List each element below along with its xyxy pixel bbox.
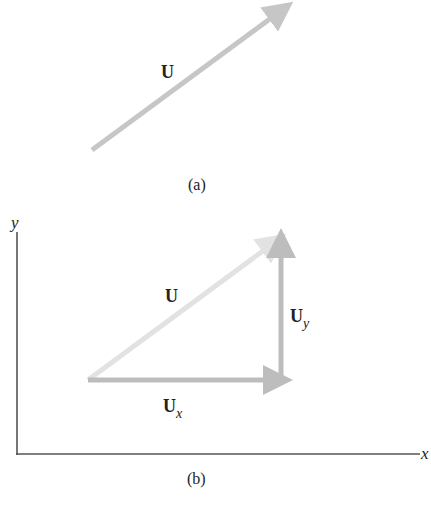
vector-u-arrow [88, 242, 275, 380]
ux-main: U [163, 396, 176, 416]
panel-b-caption: (b) [187, 470, 206, 488]
uy-main: U [290, 306, 303, 326]
panel-b: y x U Uy Ux (b) [9, 213, 429, 488]
panel-a-caption: (a) [188, 176, 206, 194]
panel-a: U (a) [92, 10, 282, 194]
vector-uy-label: Uy [290, 306, 310, 331]
uy-subscript: y [301, 316, 310, 331]
vector-u-arrow [92, 10, 282, 150]
vector-diagram-figure: U (a) y x U Uy Ux (b) [0, 0, 431, 512]
ux-subscript: x [175, 406, 183, 421]
vector-ux-label: Ux [163, 396, 183, 421]
vector-u-label: U [161, 62, 174, 82]
diagram-canvas: U (a) y x U Uy Ux (b) [0, 0, 431, 512]
y-axis-label: y [9, 213, 19, 232]
vector-u-label: U [165, 286, 178, 306]
x-axis-label: x [420, 444, 429, 463]
